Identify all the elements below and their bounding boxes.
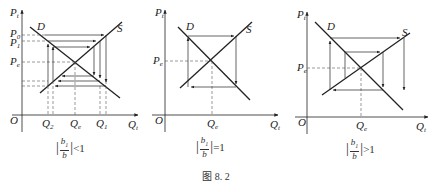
- panel-3-diverging: Pt O Qt D S Pe Qe: [295, 8, 428, 134]
- origin-label: O: [298, 116, 306, 128]
- price-label-pe: Pe: [152, 54, 163, 68]
- guide-lines: [165, 61, 212, 115]
- demand-label: D: [185, 20, 194, 32]
- panel-2-closed-cycle: Pt O Qt D S Pe Qe: [152, 6, 281, 132]
- supply-label: S: [246, 23, 252, 35]
- origin-label: O: [155, 114, 163, 126]
- quantity-label-qe: Qe: [356, 119, 367, 133]
- x-axis-label: Qt: [128, 118, 139, 132]
- quantity-label-qe: Qe: [70, 117, 81, 131]
- x-axis-label: Qt: [270, 118, 281, 132]
- y-axis-label: Pt: [9, 6, 20, 20]
- figure-caption: 图 8. 2: [0, 168, 432, 183]
- price-label-pe: Pe: [9, 55, 20, 69]
- y-axis-label: Pt: [154, 6, 165, 20]
- supply-line: [40, 22, 122, 93]
- cobweb-path: [45, 35, 106, 86]
- supply-label: S: [402, 26, 408, 38]
- supply-label: S: [117, 22, 123, 34]
- guide-lines: [307, 68, 361, 117]
- demand-label: D: [326, 20, 335, 32]
- quantity-label-q2: Q2: [42, 117, 54, 131]
- panel-2-condition: | b1b | =1: [196, 136, 225, 159]
- price-label-pe: Pe: [296, 61, 307, 75]
- panel-3-condition: | b1b | >1: [346, 138, 375, 161]
- demand-line: [315, 22, 403, 110]
- cobweb-figure: Pt O Qt D S P0 P1 Pe Q2 Qe Q1 Pt O Qt D …: [0, 0, 432, 192]
- origin-label: O: [10, 114, 18, 126]
- panel-1-condition: | b1b | <1: [56, 137, 85, 160]
- demand-line: [178, 27, 250, 100]
- x-axis-label: Qt: [416, 120, 427, 134]
- demand-label: D: [36, 20, 45, 32]
- quantity-label-q1: Q1: [96, 117, 107, 131]
- y-axis-label: Pt: [296, 8, 307, 22]
- quantity-label-qe: Qe: [207, 117, 218, 131]
- panel-1-converging: Pt O Qt D S P0 P1 Pe Q2 Qe Q1: [9, 6, 139, 132]
